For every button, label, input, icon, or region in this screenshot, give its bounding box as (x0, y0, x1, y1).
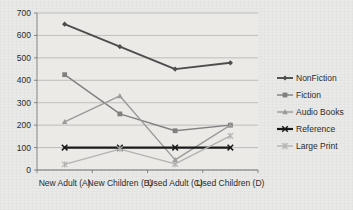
line-chart: 0100200300400500600700 New Adult (A)New … (0, 0, 353, 210)
x-tick-label: Used Children (D) (196, 178, 264, 188)
legend-item-large-print: Large Print (277, 141, 338, 151)
y-axis-tick-labels: 0100200300400500600700 (17, 8, 31, 175)
legend-label: Audio Books (296, 107, 344, 117)
y-tick-label: 100 (17, 143, 31, 153)
data-point (117, 112, 122, 117)
plot-area (37, 13, 258, 170)
data-point (173, 128, 178, 133)
legend-label: Fiction (296, 90, 321, 100)
legend-item-audio-books: Audio Books (277, 107, 344, 117)
x-tick-label: New Children (B) (88, 178, 153, 188)
y-tick-label: 500 (17, 53, 31, 63)
x-tick-label: New Adult (A) (39, 178, 91, 188)
legend-label: NonFiction (296, 73, 337, 83)
x-axis-tick-labels: New Adult (A)New Children (B)Used Adult … (39, 178, 265, 188)
legend-swatch-marker (282, 75, 287, 80)
legend-item-nonfiction: NonFiction (277, 73, 337, 83)
y-tick-label: 600 (17, 30, 31, 40)
plot-background (37, 13, 258, 170)
legend-label: Reference (296, 124, 335, 134)
y-tick-label: 300 (17, 98, 31, 108)
y-tick-label: 400 (17, 75, 31, 85)
x-tick-label: Used Adult (C) (147, 178, 202, 188)
y-tick-label: 700 (17, 8, 31, 18)
y-tick-label: 200 (17, 120, 31, 130)
legend-item-reference: Reference (277, 124, 335, 134)
chart-legend: NonFictionFictionAudio BooksReferenceLar… (277, 73, 344, 151)
legend-swatch-marker (283, 93, 288, 98)
data-point (62, 72, 67, 77)
y-tick-label: 0 (26, 165, 31, 175)
legend-label: Large Print (296, 141, 338, 151)
legend-item-fiction: Fiction (277, 90, 321, 100)
